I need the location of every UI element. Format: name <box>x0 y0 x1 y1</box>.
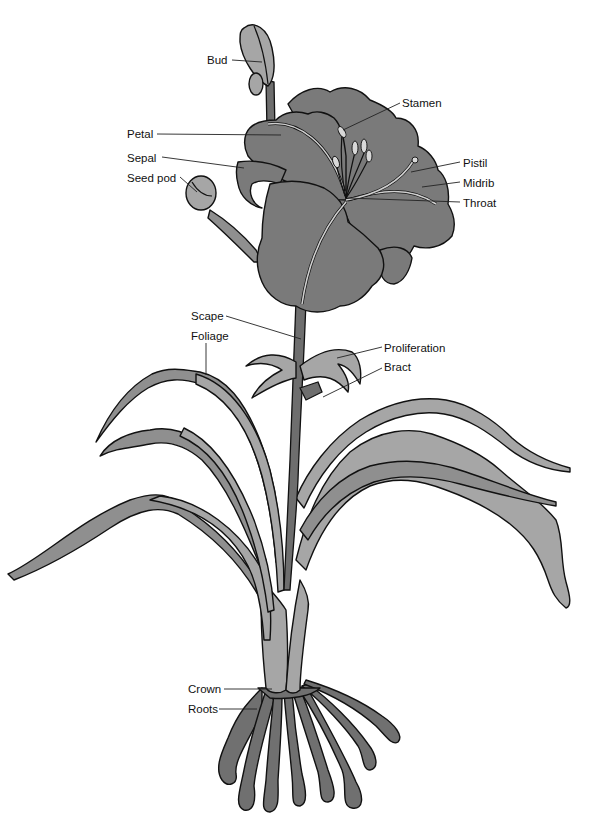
label-stamen: Stamen <box>402 96 442 110</box>
label-petal: Petal <box>127 127 153 141</box>
label-midrib: Midrib <box>463 176 494 190</box>
foliage-right <box>296 399 570 608</box>
label-scape: Scape <box>191 309 224 323</box>
label-proliferation: Proliferation <box>384 341 445 355</box>
foliage-left <box>8 369 284 640</box>
label-sepal: Sepal <box>127 151 156 165</box>
flower-illustration <box>237 88 455 312</box>
daylily-anatomy-diagram: Bud Stamen Petal Sepal Seed pod Pistil M… <box>0 0 590 831</box>
label-seed-pod: Seed pod <box>127 171 176 185</box>
plant-illustration <box>0 0 590 831</box>
label-bud: Bud <box>207 53 227 67</box>
label-bract: Bract <box>384 360 411 374</box>
label-foliage: Foliage <box>191 329 229 343</box>
label-crown: Crown <box>188 682 221 696</box>
label-pistil: Pistil <box>463 156 487 170</box>
roots-illustration <box>219 680 400 812</box>
label-throat: Throat <box>463 196 496 210</box>
label-roots: Roots <box>188 702 218 716</box>
